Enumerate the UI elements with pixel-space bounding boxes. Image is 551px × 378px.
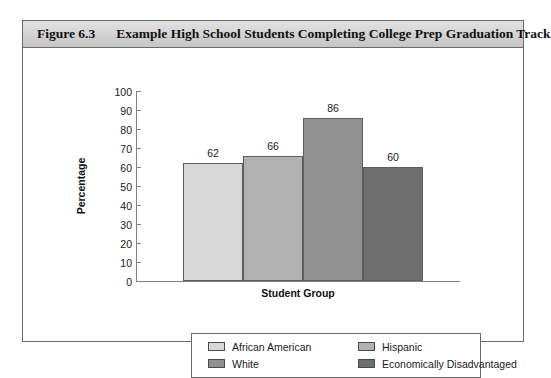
legend-row: WhiteEconomically Disadvantaged: [200, 355, 472, 372]
bar-value-label: 60: [363, 151, 423, 163]
bar[interactable]: [303, 118, 363, 281]
bar-value-label: 86: [303, 102, 363, 114]
legend-swatch: [208, 359, 225, 368]
figure-body: Percentage 0102030405060708090100 626686…: [23, 48, 523, 341]
bar-value-label: 66: [243, 140, 303, 152]
y-axis-tick-label: 60: [120, 162, 132, 174]
legend-swatch: [358, 342, 375, 351]
legend-row: African AmericanHispanic: [200, 338, 472, 355]
x-axis-line: [136, 281, 460, 282]
y-axis-tick-label: 50: [120, 181, 132, 193]
y-axis-tick-label: 100: [114, 86, 132, 98]
legend-swatch: [208, 342, 225, 351]
y-axis-tick-label: 90: [120, 105, 132, 117]
bar-slot: 62: [183, 91, 243, 281]
y-axis-title: Percentage: [75, 158, 87, 215]
bar-slot: 86: [303, 91, 363, 281]
legend-item[interactable]: White: [208, 358, 259, 370]
figure-title: Example High School Students Completing …: [116, 26, 550, 42]
legend-label: Economically Disadvantaged: [382, 358, 517, 370]
legend-label: White: [232, 358, 259, 370]
bar[interactable]: [363, 167, 423, 281]
y-axis-tick-label: 80: [120, 124, 132, 136]
chart-legend: African AmericanHispanicWhiteEconomicall…: [191, 333, 481, 378]
y-axis-tick-label: 70: [120, 143, 132, 155]
y-axis-tick-label: 10: [120, 257, 132, 269]
legend-swatch: [358, 359, 375, 368]
y-axis-tick-label: 20: [120, 238, 132, 250]
figure-header: Figure 6.3 Example High School Students …: [23, 21, 523, 48]
bar[interactable]: [183, 163, 243, 281]
x-axis-title: Student Group: [136, 287, 460, 299]
bar-value-label: 62: [183, 147, 243, 159]
legend-item[interactable]: African American: [208, 341, 311, 353]
bar-group: 62668660: [137, 91, 460, 281]
y-axis-tick: 0: [136, 281, 141, 282]
legend-item[interactable]: Hispanic: [358, 341, 422, 353]
bar-slot: 66: [243, 91, 303, 281]
y-axis-tick-label: 30: [120, 219, 132, 231]
bar-slot: 60: [363, 91, 423, 281]
legend-label: African American: [232, 341, 311, 353]
figure-container: Figure 6.3 Example High School Students …: [22, 20, 524, 342]
chart-plot-area: Percentage 0102030405060708090100 626686…: [23, 48, 523, 298]
y-axis-tick-label: 0: [126, 276, 132, 288]
bar[interactable]: [243, 156, 303, 281]
y-axis-tick-label: 40: [120, 200, 132, 212]
figure-number: Figure 6.3: [37, 26, 95, 42]
legend-item[interactable]: Economically Disadvantaged: [358, 358, 517, 370]
legend-label: Hispanic: [382, 341, 422, 353]
